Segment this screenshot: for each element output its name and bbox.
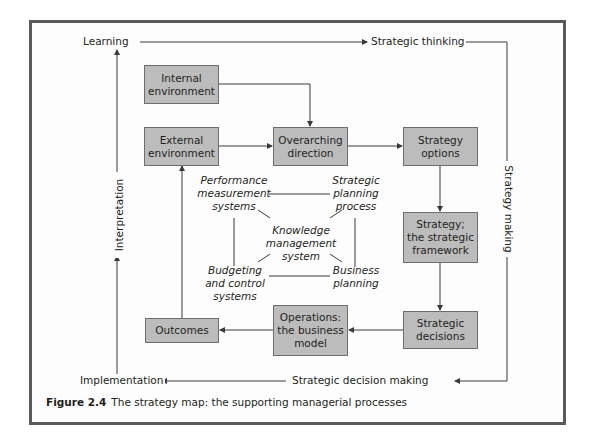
figure-caption: Figure 2.4The strategy map: the supporti…	[46, 396, 407, 408]
box-external-environment: External environment	[144, 127, 219, 166]
box-internal-environment: Internal environment	[144, 65, 219, 104]
process-budgeting-control: Budgeting and control systems	[198, 264, 272, 303]
label-learning: Learning	[81, 35, 131, 48]
process-knowledge-management: Knowledge management system	[256, 224, 346, 263]
box-strategic-framework: Strategy; the strategic framework	[403, 212, 478, 263]
label-interpretation: Interpretation	[113, 172, 125, 258]
box-strategic-decisions: Strategic decisions	[403, 311, 478, 349]
box-operations: Operations: the business model	[273, 305, 348, 356]
process-performance-measurement: Performance measurement systems	[196, 174, 272, 213]
label-implementation: Implementation	[78, 374, 165, 387]
box-strategy-options: Strategy options	[403, 127, 478, 166]
process-business-planning: Business planning	[326, 264, 386, 290]
caption-text: The strategy map: the supporting manager…	[111, 396, 407, 408]
caption-number: Figure 2.4	[46, 396, 106, 408]
label-strategic-thinking: Strategic thinking	[369, 35, 466, 48]
box-overarching-direction: Overarching direction	[273, 127, 348, 166]
label-strategy-making: Strategy making	[503, 161, 515, 257]
process-strategic-planning: Strategic planning process	[326, 174, 386, 213]
box-outcomes: Outcomes	[145, 318, 219, 343]
label-strategic-decision-making: Strategic decision making	[290, 374, 430, 387]
